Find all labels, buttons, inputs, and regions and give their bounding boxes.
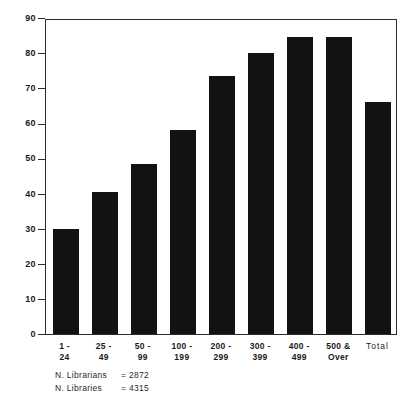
y-axis-label-text: 70	[2, 84, 36, 93]
y-axis-tick	[38, 53, 45, 54]
y-axis-label: 90	[0, 14, 36, 24]
bar	[92, 192, 118, 334]
bar	[170, 130, 196, 334]
x-axis-category-line2: Over	[314, 352, 362, 363]
y-axis-label: 10	[0, 295, 36, 305]
y-axis-label-text: 10	[2, 295, 36, 304]
plot-area	[45, 19, 397, 335]
footnote-separator: =	[121, 383, 126, 393]
y-axis-label: 30	[0, 225, 36, 235]
bar	[365, 102, 391, 334]
y-axis-tick	[38, 299, 45, 300]
y-axis-tick	[38, 124, 45, 125]
y-axis-label: 0	[0, 330, 36, 340]
y-axis-tick	[38, 334, 45, 335]
x-axis-category-label: Total	[353, 341, 401, 352]
y-axis-label-text: 20	[2, 260, 36, 269]
bar	[53, 229, 79, 334]
y-axis-label: 60	[0, 119, 36, 129]
y-axis-tick	[38, 264, 45, 265]
y-axis-label-text: 80	[2, 49, 36, 58]
footnote-separator: =	[121, 370, 126, 380]
bar	[248, 53, 274, 334]
y-axis-label-text: 40	[2, 190, 36, 199]
y-axis-tick	[38, 88, 45, 89]
bar	[131, 164, 157, 334]
y-axis-label-text: 30	[2, 225, 36, 234]
y-axis-label-text: 0	[2, 330, 36, 339]
footnotes: N. Librarians= 2872N. Libraries= 4315	[55, 369, 149, 395]
y-axis-label: 20	[0, 260, 36, 270]
y-axis-label-text: 50	[2, 154, 36, 163]
footnote-row: N. Librarians= 2872	[55, 369, 149, 382]
bar	[287, 37, 313, 334]
y-axis-label-text: 60	[2, 119, 36, 128]
x-axis-category-line1: Total	[353, 341, 401, 352]
y-axis-label: 70	[0, 84, 36, 94]
y-axis-tick	[38, 159, 45, 160]
footnote-row: N. Libraries= 4315	[55, 382, 149, 395]
y-axis-tick	[38, 194, 45, 195]
y-axis-label: 40	[0, 190, 36, 200]
footnote-value: 4315	[129, 383, 149, 393]
y-axis-label-text: 90	[2, 14, 36, 23]
bar	[209, 76, 235, 334]
footnote-label: N. Libraries	[55, 382, 121, 395]
bar-chart: 0102030405060708090 1 -2425 -4950 -99100…	[0, 0, 412, 402]
y-axis-tick	[38, 229, 45, 230]
y-axis-label: 80	[0, 49, 36, 59]
footnote-label: N. Librarians	[55, 369, 121, 382]
footnote-value: 2872	[129, 370, 149, 380]
y-axis-tick	[38, 18, 45, 19]
y-axis-label: 50	[0, 154, 36, 164]
bar	[326, 37, 352, 334]
